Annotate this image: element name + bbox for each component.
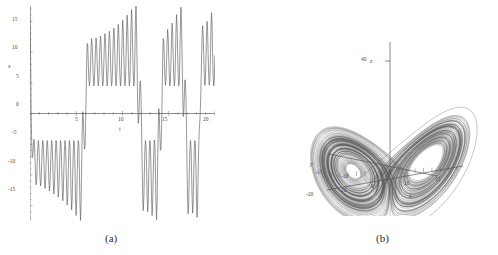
panel-b-xtick-n20: -20 xyxy=(306,191,313,197)
panel-b-xtick-0: 0 xyxy=(371,183,374,189)
attractor-svg xyxy=(267,4,495,216)
panel-a-ytick-n5: -5 xyxy=(12,129,17,135)
panel-b-xlabel: x xyxy=(409,193,412,199)
panel-a-plot-area xyxy=(30,6,215,221)
panel-b-zlabel: z xyxy=(370,58,372,64)
panel-a-time-series: x t 15 10 5 0 -5 -10 -15 5 10 15 20 xyxy=(0,0,249,228)
caption-b: (b) xyxy=(376,232,389,244)
panel-a-ytick-n15: -15 xyxy=(8,186,15,192)
panel-b-xtick-15: 15 xyxy=(435,176,441,182)
panel-b-ytick-n10: -10 xyxy=(341,173,348,179)
time-series-svg xyxy=(30,6,215,221)
panel-a-ytick-5: 5 xyxy=(16,73,19,79)
panel-a-ytick-10: 10 xyxy=(12,44,18,50)
panel-a-ylabel: x xyxy=(8,63,11,69)
panel-b-ztick-40: 40 xyxy=(361,56,367,62)
panel-b-xtick-10: 10 xyxy=(404,180,410,186)
figure-container: x t 15 10 5 0 -5 -10 -15 5 10 15 20 xyxy=(0,0,498,255)
panel-a-ytick-n10: -10 xyxy=(8,158,15,164)
panel-b-ytick-n15: -15 xyxy=(315,169,322,175)
panel-b-attractor: z x y 40 -20 -10 0 10 15 -15 -10 xyxy=(249,0,498,228)
panel-b-xtick-n10: -10 xyxy=(339,187,346,193)
panel-a-ytick-15: 15 xyxy=(12,16,18,22)
attractor-trajectory xyxy=(311,107,478,216)
panel-b-plot-area xyxy=(267,4,495,216)
caption-a: (a) xyxy=(105,232,117,244)
panel-b-ylabel: y xyxy=(310,161,313,167)
panel-a-ytick-0: 0 xyxy=(16,101,19,107)
